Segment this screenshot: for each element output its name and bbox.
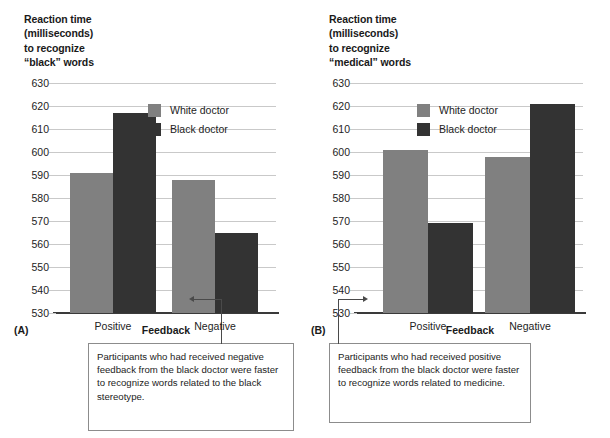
y-tick-mark (49, 313, 56, 314)
gridline (357, 83, 583, 84)
chart-title-a: Reaction time (milliseconds) to recogniz… (24, 12, 94, 69)
callout-leader-vertical-b (338, 299, 339, 344)
gridline (56, 83, 276, 84)
y-tick-mark (49, 106, 56, 107)
y-tick-mark (350, 290, 357, 291)
gridline (56, 152, 276, 153)
legend-label-black-doctor: Black doctor (170, 124, 228, 135)
callout-b: Participants who had received positive f… (329, 343, 531, 423)
legend-item-black-doctor-b: Black doctor (417, 120, 498, 139)
legend-swatch-black-doctor-icon (417, 123, 430, 136)
y-tick-mark (350, 313, 357, 314)
y-tick-mark (49, 221, 56, 222)
x-axis-category-label: Positive (410, 320, 447, 332)
callout-leader-horizontal-b (338, 299, 364, 300)
legend-label-white-doctor: White doctor (170, 105, 229, 116)
callout-arrowhead-b-icon (363, 296, 368, 302)
panel-a: Reaction time (milliseconds) to recogniz… (0, 0, 305, 438)
y-tick-mark (49, 129, 56, 130)
legend-swatch-black-doctor-icon (148, 123, 161, 136)
bar-positive-white-doctor (383, 150, 428, 313)
y-tick-mark (49, 244, 56, 245)
y-axis-tick-label: 560 (31, 238, 49, 250)
x-axis-title-a: Feedback (142, 324, 190, 336)
y-axis-tick-label: 570 (332, 215, 350, 227)
y-axis-tick-label: 630 (332, 77, 350, 89)
bar-positive-black-doctor (428, 223, 473, 313)
y-tick-mark (49, 290, 56, 291)
y-tick-mark (49, 198, 56, 199)
y-axis-tick-label: 620 (31, 100, 49, 112)
x-axis-category-label: Negative (509, 320, 550, 332)
y-axis-tick-label: 580 (31, 192, 49, 204)
y-tick-mark (49, 152, 56, 153)
legend-label-white-doctor: White doctor (439, 105, 498, 116)
y-tick-mark (350, 244, 357, 245)
bar-positive-black-doctor (113, 113, 156, 313)
bar-positive-white-doctor (70, 173, 113, 313)
legend-swatch-white-doctor-icon (148, 104, 161, 117)
y-tick-mark (350, 175, 357, 176)
y-axis-tick-label: 610 (332, 123, 350, 135)
y-tick-mark (350, 198, 357, 199)
y-axis-tick-label: 590 (332, 169, 350, 181)
callout-arrowhead-a-icon (189, 296, 194, 302)
x-axis-category-label: Positive (95, 320, 132, 332)
panel-b: Reaction time (milliseconds) to recogniz… (305, 0, 610, 438)
y-tick-mark (49, 267, 56, 268)
y-axis-tick-label: 590 (31, 169, 49, 181)
bar-negative-white-doctor (485, 157, 530, 313)
panel-letter-a: (A) (14, 324, 29, 336)
legend-b: White doctor Black doctor (417, 101, 498, 139)
y-tick-mark (49, 175, 56, 176)
callout-a: Participants who had received negative f… (88, 343, 294, 431)
y-tick-mark (350, 129, 357, 130)
y-axis-tick-label: 580 (332, 192, 350, 204)
y-tick-mark (350, 267, 357, 268)
legend-item-white-doctor-b: White doctor (417, 101, 498, 120)
legend-a: White doctor Black doctor (148, 101, 229, 139)
y-tick-mark (350, 152, 357, 153)
y-axis-tick-label: 540 (31, 284, 49, 296)
y-axis-tick-label: 630 (31, 77, 49, 89)
y-axis-tick-label: 530 (31, 307, 49, 319)
y-axis-tick-label: 530 (332, 307, 350, 319)
y-axis-tick-label: 540 (332, 284, 350, 296)
legend-swatch-white-doctor-icon (417, 104, 430, 117)
y-axis-tick-label: 610 (31, 123, 49, 135)
y-tick-mark (49, 83, 56, 84)
x-axis-title-b: Feedback (446, 324, 494, 336)
y-tick-mark (350, 83, 357, 84)
y-axis-tick-label: 600 (31, 146, 49, 158)
callout-leader-horizontal-a (194, 299, 222, 300)
x-axis-category-label: Negative (194, 320, 235, 332)
bar-negative-white-doctor (172, 180, 215, 313)
y-tick-mark (350, 221, 357, 222)
y-axis-tick-label: 550 (31, 261, 49, 273)
legend-label-black-doctor: Black doctor (439, 124, 497, 135)
y-axis-tick-label: 620 (332, 100, 350, 112)
panel-letter-b: (B) (311, 324, 326, 336)
bar-negative-black-doctor (530, 104, 575, 313)
legend-item-black-doctor-a: Black doctor (148, 120, 229, 139)
y-axis-tick-label: 560 (332, 238, 350, 250)
legend-item-white-doctor-a: White doctor (148, 101, 229, 120)
chart-title-b: Reaction time (milliseconds) to recogniz… (329, 12, 411, 69)
y-axis-tick-label: 600 (332, 146, 350, 158)
y-axis-tick-label: 550 (332, 261, 350, 273)
y-tick-mark (350, 106, 357, 107)
y-axis-tick-label: 570 (31, 215, 49, 227)
